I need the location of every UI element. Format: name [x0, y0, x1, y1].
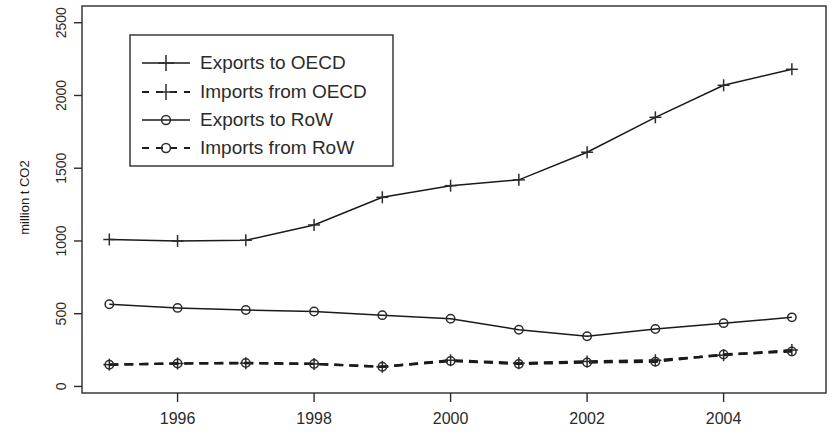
y-axis-tick-label: 1500 — [53, 152, 69, 183]
series-line — [109, 304, 792, 336]
x-axis-tick-label: 2004 — [706, 410, 742, 427]
y-axis-tick-label: 2500 — [53, 7, 69, 38]
legend-label: Imports from RoW — [200, 137, 354, 158]
x-axis-tick-label: 1996 — [160, 410, 196, 427]
series-3 — [105, 300, 796, 340]
chart-figure: million t CO2 05001000150020002500199619… — [0, 0, 834, 434]
legend-label: Imports from OECD — [200, 81, 367, 102]
y-axis-tick-label: 1000 — [53, 225, 69, 256]
y-axis-tick-label: 0 — [53, 382, 69, 390]
x-axis-tick-label: 2002 — [569, 410, 605, 427]
x-axis-tick-label: 2000 — [433, 410, 469, 427]
y-axis-tick-label: 500 — [53, 302, 69, 326]
x-axis-tick-label: 1998 — [296, 410, 332, 427]
chart-legend: Exports to OECDImports from OECDExports … — [130, 35, 393, 166]
series-2 — [103, 344, 798, 373]
y-axis-tick-label: 2000 — [53, 80, 69, 111]
legend-label: Exports to RoW — [200, 109, 333, 130]
line-chart-plot: 0500100015002000250019961998200020022004… — [0, 0, 834, 434]
legend-label: Exports to OECD — [200, 52, 346, 73]
